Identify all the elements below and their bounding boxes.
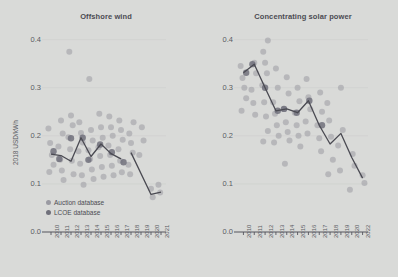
data-point: [319, 109, 325, 115]
data-point: [282, 161, 288, 167]
legend-item-auction[interactable]: Auction database: [46, 199, 104, 206]
data-point: [326, 117, 332, 123]
data-point: [294, 122, 300, 128]
data-point: [287, 138, 293, 144]
data-point: [273, 65, 279, 71]
data-point: [286, 90, 292, 96]
data-point: [335, 142, 341, 148]
data-point: [274, 122, 280, 128]
legend-swatch-lcoe-icon: [46, 210, 51, 215]
data-point: [264, 70, 270, 76]
data-point: [260, 49, 266, 55]
data-point: [276, 133, 282, 139]
data-point: [243, 95, 249, 101]
data-point: [261, 99, 267, 105]
data-point: [296, 98, 302, 104]
x-axis-tick-label: 2022: [365, 225, 371, 238]
x-axis-tick-label: 2019: [344, 225, 350, 238]
x-axis-tick-label: 2010: [246, 225, 252, 238]
data-point: [265, 38, 271, 44]
data-point: [248, 87, 254, 93]
data-point: [330, 157, 336, 163]
data-point: [252, 112, 258, 118]
legend-label: Auction database: [54, 199, 104, 206]
data-point: [262, 60, 268, 66]
data-point: [316, 135, 322, 141]
legend-item-lcoe[interactable]: LCOE database: [46, 209, 100, 216]
x-axis-tick-label: 2011: [257, 225, 263, 238]
legend-label: LCOE database: [54, 209, 100, 216]
x-axis-tick-label: 2020: [354, 225, 360, 238]
data-point: [265, 128, 271, 134]
data-point: [284, 74, 290, 80]
x-axis-tick-label: 2016: [311, 225, 317, 238]
data-point: [275, 85, 281, 91]
data-point: [318, 148, 324, 154]
data-point: [337, 167, 343, 173]
data-point: [283, 119, 289, 125]
data-point: [304, 130, 310, 136]
x-axis-tick-label: 2014: [289, 225, 295, 238]
data-point: [239, 75, 245, 81]
data-point: [328, 134, 334, 140]
x-axis-tick-label: 2012: [268, 225, 274, 238]
data-point: [285, 129, 291, 135]
data-point: [324, 100, 330, 106]
data-point: [271, 140, 277, 146]
data-point: [250, 100, 256, 106]
data-point: [260, 139, 266, 145]
data-point: [295, 85, 301, 91]
data-point: [241, 85, 247, 91]
x-axis-tick-label: 2015: [300, 225, 306, 238]
data-point: [340, 127, 346, 133]
data-point: [238, 63, 244, 69]
data-point: [303, 118, 309, 124]
x-axis-tick-label: 2018: [333, 225, 339, 238]
data-point: [338, 85, 344, 91]
x-axis-tick-label: 2013: [279, 225, 285, 238]
legend-swatch-auction-icon: [46, 200, 51, 205]
data-point: [296, 133, 302, 139]
data-point: [347, 187, 353, 193]
data-point: [325, 171, 331, 177]
data-point: [304, 76, 310, 82]
data-point: [361, 180, 367, 186]
data-point: [317, 90, 323, 96]
y-axis-label: 2018 USD/kWh: [12, 120, 19, 165]
figure-canvas: Offshore wind0.00.10.20.30.4201020112012…: [0, 0, 398, 277]
data-point: [239, 108, 245, 114]
data-point: [297, 143, 303, 149]
x-axis-tick-label: 2017: [322, 225, 328, 238]
data-point: [263, 114, 269, 120]
